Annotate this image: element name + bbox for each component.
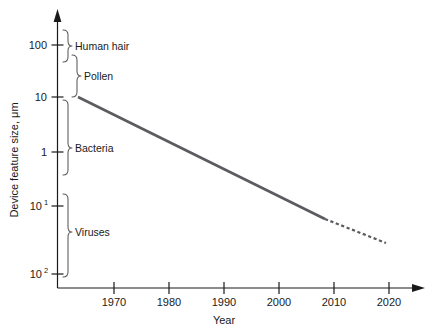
y-axis-arrow-icon [54,9,62,22]
y-tick-label-1: 1 [41,146,47,158]
y-tick-label-0-01-base: 10 [30,268,42,280]
x-tick-label-2020: 2020 [377,296,401,308]
human-hair-label: Human hair [75,40,130,52]
y-tick-label-0-1-exponent: 1 [44,198,48,207]
y-tick-label-100: 100 [29,39,47,51]
y-tick-label-0-1-base: 10 [30,200,42,212]
bacteria-label: Bacteria [75,142,114,154]
x-tick-label-2000: 2000 [267,296,291,308]
x-tick-label-1980: 1980 [157,296,181,308]
device-feature-size-chart: 100 10 1 10 1 10 2 1970 1980 1990 2000 2… [0,0,432,330]
x-axis-title: Year [213,314,236,326]
viruses-bracket-icon [63,194,72,277]
y-tick-label-10: 10 [35,91,47,103]
annotation-human-hair: Human hair [63,30,130,62]
x-tick-label-group: 1970 1980 1990 2000 2010 2020 [102,296,401,308]
trend-line-group [78,97,386,243]
bacteria-bracket-icon [63,100,72,175]
chart-canvas: 100 10 1 10 1 10 2 1970 1980 1990 2000 2… [0,0,432,330]
annotation-pollen: Pollen [72,55,113,97]
x-tick-label-1970: 1970 [102,296,126,308]
viruses-label: Viruses [75,226,110,238]
y-axis-title: Device feature size, μm [8,102,20,217]
human-hair-bracket-icon [63,30,72,62]
trend-line-dashed-segment [325,219,386,243]
x-tick-label-2010: 2010 [322,296,346,308]
x-tick-label-1990: 1990 [212,296,236,308]
x-axis-arrow-icon [412,284,425,292]
trend-line-solid-segment [78,97,325,219]
y-tick-label-group: 100 10 1 10 1 10 2 [29,39,49,280]
pollen-label: Pollen [84,70,113,82]
annotation-viruses: Viruses [63,194,110,277]
pollen-bracket-icon [72,55,81,97]
y-tick-label-0-01-exponent: 2 [44,266,48,275]
